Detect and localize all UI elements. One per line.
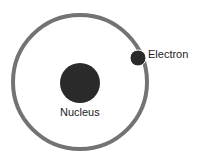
electron <box>130 50 146 66</box>
nucleus <box>60 63 100 103</box>
electron-label: Electron <box>148 48 188 60</box>
nucleus-label: Nucleus <box>60 106 100 118</box>
atom-diagram <box>0 0 203 162</box>
